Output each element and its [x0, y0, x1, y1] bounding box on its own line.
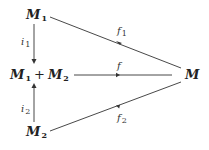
node-m1: M1: [26, 8, 47, 22]
node-m2: M2: [26, 125, 47, 139]
node-sum-right-base: M: [48, 67, 62, 82]
arrowhead-i1-icon: [32, 59, 37, 64]
node-m-base: M: [185, 67, 199, 82]
arrowhead-f2-icon: [116, 105, 120, 109]
label-i1: i1: [21, 37, 30, 49]
node-m2-sub: 2: [41, 130, 47, 140]
label-i2: i2: [21, 104, 30, 116]
node-sum-left-base: M: [10, 67, 24, 82]
label-f2: f2: [117, 113, 127, 125]
arrowhead-f-icon: [116, 73, 120, 77]
node-m: M: [185, 68, 199, 81]
node-m1-base: M: [26, 7, 40, 22]
label-f: f: [117, 61, 121, 71]
arrow-f2: [50, 82, 181, 131]
node-m2-base: M: [26, 124, 40, 139]
node-sum-right-sub: 2: [63, 73, 69, 83]
node-sum-left-sub: 1: [25, 73, 31, 83]
label-f1: f1: [117, 26, 127, 38]
node-sum: M1+M2: [10, 68, 69, 82]
arrow-f1: [50, 17, 181, 68]
arrowhead-i2-icon: [32, 83, 37, 88]
node-sum-op: +: [34, 67, 45, 82]
node-m1-sub: 1: [41, 13, 47, 23]
